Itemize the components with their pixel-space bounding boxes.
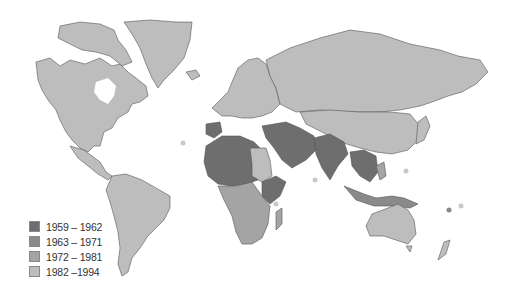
legend-swatch (29, 221, 40, 232)
island-marker (447, 208, 452, 213)
legend-item: 1963 – 1971 (29, 234, 102, 249)
region-horn-of-africa (262, 176, 286, 204)
region-philippines (376, 162, 386, 180)
island-marker (181, 141, 186, 146)
region-central-america (70, 146, 112, 180)
island-marker (313, 178, 318, 183)
legend-label: 1982 –1994 (46, 266, 99, 278)
legend-label: 1963 – 1971 (46, 236, 102, 248)
legend-label: 1972 – 1981 (46, 251, 102, 263)
region-australia (366, 204, 416, 244)
region-madagascar (276, 208, 282, 230)
region-southeast-asia (350, 150, 378, 182)
region-tasmania (406, 246, 412, 252)
map-legend: 1959 – 1962 1963 – 1971 1972 – 1981 1982… (29, 219, 102, 279)
legend-item: 1982 –1994 (29, 264, 102, 279)
island-marker (404, 169, 409, 174)
region-new-zealand (438, 240, 450, 260)
region-arctic-islands (58, 22, 132, 66)
legend-item: 1972 – 1981 (29, 249, 102, 264)
region-russia (266, 30, 488, 112)
region-japan (416, 116, 430, 144)
region-indonesia (344, 186, 418, 208)
legend-swatch (29, 266, 40, 277)
region-south-america (106, 174, 170, 276)
region-egypt-sudan (250, 148, 272, 182)
legend-item: 1959 – 1962 (29, 219, 102, 234)
region-iceland (186, 70, 200, 80)
legend-swatch (29, 251, 40, 262)
region-iberia (206, 122, 222, 138)
legend-swatch (29, 236, 40, 247)
region-north-america (36, 58, 148, 152)
island-marker (459, 204, 464, 209)
island-marker (274, 202, 279, 207)
legend-label: 1959 – 1962 (46, 221, 102, 233)
